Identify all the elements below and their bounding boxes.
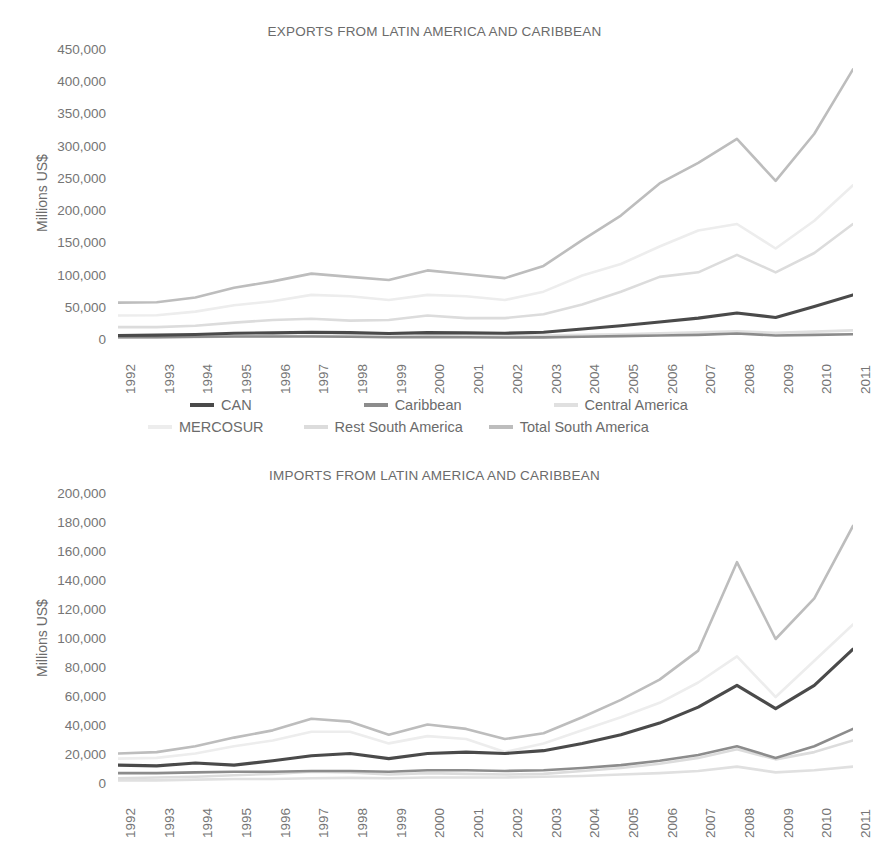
y-tick-label: 80,000 xyxy=(26,661,106,675)
x-tick-label: 2003 xyxy=(549,808,564,838)
legend-label: Rest South America xyxy=(335,420,463,435)
y-tick-label: 450,000 xyxy=(26,43,106,57)
legend-row-secondary: MERCOSURRest South AmericaTotal South Am… xyxy=(148,420,649,435)
y-tick-label: 200,000 xyxy=(26,487,106,501)
y-tick-label: 120,000 xyxy=(26,603,106,617)
legend-label: CAN xyxy=(221,398,252,413)
x-tick-label: 2006 xyxy=(665,808,680,838)
legend-label: Total South America xyxy=(520,420,649,435)
x-tick-label: 1997 xyxy=(316,808,331,838)
y-tick-label: 160,000 xyxy=(26,545,106,559)
exports-chart-title: EXPORTS FROM LATIN AMERICA AND CARIBBEAN xyxy=(0,24,869,39)
x-tick-label: 2009 xyxy=(781,808,796,838)
y-tick-label: 100,000 xyxy=(26,269,106,283)
imports-y-axis-ticks: 200,000180,000160,000140,000120,000100,0… xyxy=(22,450,106,846)
x-tick-label: 2000 xyxy=(432,808,447,838)
exports-x-axis-ticks: 1992199319941995199619971998199920002001… xyxy=(118,344,853,402)
imports-chart-title: IMPORTS FROM LATIN AMERICA AND CARIBBEAN xyxy=(0,468,869,483)
y-tick-label: 20,000 xyxy=(26,748,106,762)
legend-item[interactable]: Rest South America xyxy=(304,420,463,435)
x-tick-label: 2002 xyxy=(510,364,525,394)
x-tick-label: 2011 xyxy=(858,809,873,838)
exports-chart-panel: EXPORTS FROM LATIN AMERICA AND CARIBBEAN… xyxy=(0,0,869,450)
y-tick-label: 50,000 xyxy=(26,301,106,315)
series-line-total-south-america xyxy=(118,69,853,302)
x-tick-label: 1993 xyxy=(162,364,177,394)
x-tick-label: 1995 xyxy=(239,808,254,838)
x-tick-label: 2006 xyxy=(665,364,680,394)
series-line-can xyxy=(118,295,853,336)
chart-legend: CANCaribbeanCentral America MERCOSURRest… xyxy=(0,398,869,446)
x-tick-label: 1995 xyxy=(239,364,254,394)
exports-y-axis-ticks: 450,000400,000350,000300,000250,000200,0… xyxy=(22,0,106,450)
legend-label: Caribbean xyxy=(395,398,462,413)
imports-x-axis-ticks: 1992199319941995199619971998199920002001… xyxy=(118,788,853,846)
x-tick-label: 1994 xyxy=(200,808,215,838)
x-tick-label: 1998 xyxy=(355,808,370,838)
y-tick-label: 0 xyxy=(26,333,106,347)
legend-item[interactable]: CAN xyxy=(190,398,252,413)
y-tick-label: 350,000 xyxy=(26,108,106,122)
x-tick-label: 2011 xyxy=(858,365,873,394)
imports-chart-panel: IMPORTS FROM LATIN AMERICA AND CARIBBEAN… xyxy=(0,450,869,846)
legend-item[interactable]: Central America xyxy=(554,398,688,413)
x-tick-label: 2010 xyxy=(819,364,834,394)
x-tick-label: 2007 xyxy=(703,364,718,394)
legend-item[interactable]: MERCOSUR xyxy=(148,420,264,435)
x-tick-label: 1994 xyxy=(200,364,215,394)
legend-swatch-icon xyxy=(190,403,214,407)
x-tick-label: 1997 xyxy=(316,364,331,394)
y-tick-label: 250,000 xyxy=(26,172,106,186)
y-tick-label: 300,000 xyxy=(26,140,106,154)
x-tick-label: 2001 xyxy=(471,364,486,394)
x-tick-label: 1992 xyxy=(123,364,138,394)
legend-swatch-icon xyxy=(489,425,513,429)
x-tick-label: 2008 xyxy=(742,808,757,838)
x-tick-label: 2007 xyxy=(703,808,718,838)
x-tick-label: 2009 xyxy=(781,364,796,394)
exports-plot-area xyxy=(118,50,853,340)
y-tick-label: 60,000 xyxy=(26,690,106,704)
plot-lines xyxy=(118,50,853,340)
legend-swatch-icon xyxy=(554,403,578,407)
y-tick-label: 40,000 xyxy=(26,719,106,733)
x-tick-label: 2003 xyxy=(549,364,564,394)
series-line-total-south-america xyxy=(118,526,853,754)
x-tick-label: 1999 xyxy=(394,808,409,838)
legend-label: MERCOSUR xyxy=(179,420,264,435)
y-tick-label: 100,000 xyxy=(26,632,106,646)
y-tick-label: 150,000 xyxy=(26,237,106,251)
x-tick-label: 1992 xyxy=(123,808,138,838)
plot-lines xyxy=(118,494,853,784)
x-tick-label: 2004 xyxy=(587,364,602,394)
legend-row-primary: CANCaribbeanCentral America xyxy=(190,398,688,413)
x-tick-label: 2005 xyxy=(626,808,641,838)
y-tick-label: 0 xyxy=(26,777,106,791)
legend-swatch-icon xyxy=(148,425,172,429)
legend-item[interactable]: Caribbean xyxy=(364,398,462,413)
y-tick-label: 140,000 xyxy=(26,574,106,588)
legend-swatch-icon xyxy=(364,403,388,407)
x-tick-label: 1996 xyxy=(278,808,293,838)
y-tick-label: 400,000 xyxy=(26,75,106,89)
x-tick-label: 2008 xyxy=(742,364,757,394)
legend-swatch-icon xyxy=(304,425,328,429)
x-tick-label: 2005 xyxy=(626,364,641,394)
x-tick-label: 1998 xyxy=(355,364,370,394)
x-tick-label: 1996 xyxy=(278,364,293,394)
imports-plot-area xyxy=(118,494,853,784)
legend-item[interactable]: Total South America xyxy=(489,420,649,435)
x-tick-label: 2000 xyxy=(432,364,447,394)
x-tick-label: 2002 xyxy=(510,808,525,838)
y-tick-label: 200,000 xyxy=(26,204,106,218)
x-tick-label: 2001 xyxy=(471,808,486,838)
legend-label: Central America xyxy=(585,398,688,413)
series-line-mercosur xyxy=(118,185,853,315)
x-tick-label: 2004 xyxy=(587,808,602,838)
x-tick-label: 1993 xyxy=(162,808,177,838)
y-tick-label: 180,000 xyxy=(26,516,106,530)
x-tick-label: 1999 xyxy=(394,364,409,394)
x-tick-label: 2010 xyxy=(819,808,834,838)
